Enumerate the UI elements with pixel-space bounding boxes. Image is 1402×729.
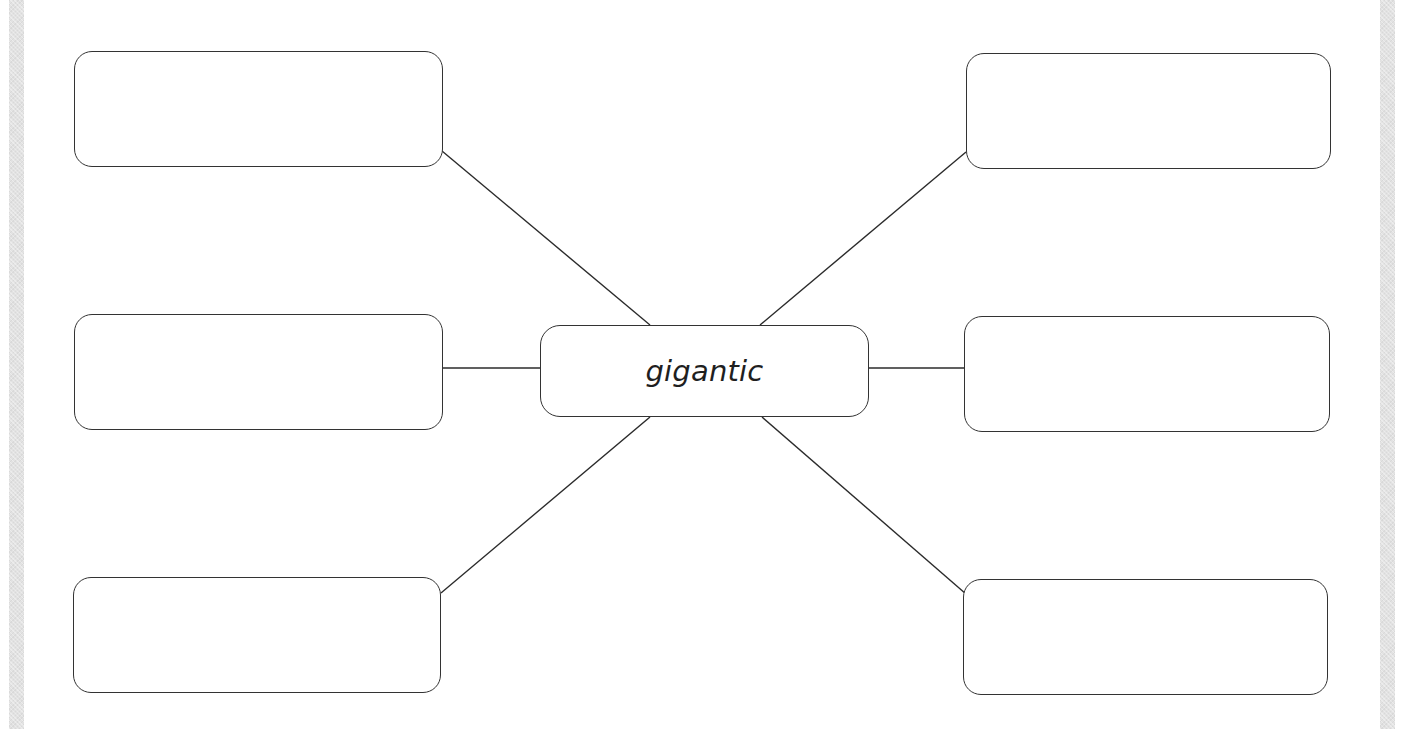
- word-web-page: gigantic: [0, 0, 1402, 729]
- outer-box-top-right[interactable]: [966, 53, 1331, 169]
- center-word-box: gigantic: [540, 325, 869, 417]
- center-word: gigantic: [646, 354, 764, 388]
- outer-box-middle-right[interactable]: [964, 316, 1330, 432]
- connector-top-left: [442, 151, 650, 325]
- connector-top-right: [760, 152, 966, 325]
- outer-box-middle-left[interactable]: [74, 314, 443, 430]
- right-margin-strip: [1380, 0, 1395, 729]
- left-margin-strip: [9, 0, 24, 729]
- connector-bottom-left: [441, 417, 650, 593]
- outer-box-bottom-left[interactable]: [73, 577, 441, 693]
- outer-box-bottom-right[interactable]: [963, 579, 1328, 695]
- outer-box-top-left[interactable]: [74, 51, 443, 167]
- connector-bottom-right: [762, 417, 966, 594]
